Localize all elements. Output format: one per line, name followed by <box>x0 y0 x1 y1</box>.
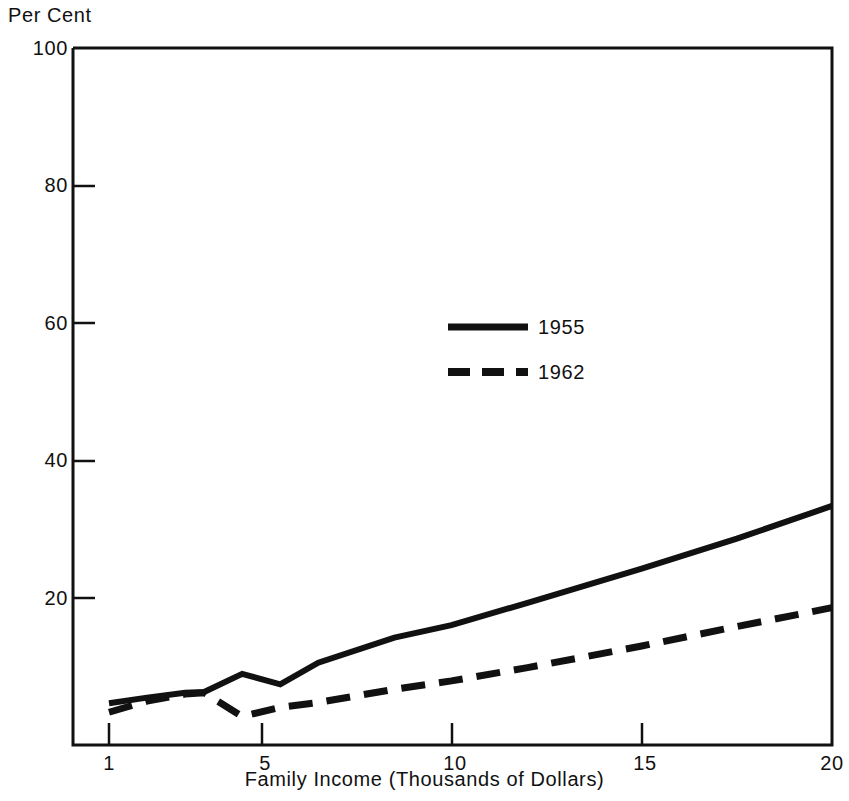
y-axis-ticks <box>73 186 95 598</box>
series-line-1962 <box>109 608 832 717</box>
series-line-1955 <box>109 506 832 703</box>
chart-figure: Per Cent 100 80 60 40 20 1 5 10 15 20 Fa… <box>0 0 849 801</box>
plot-area <box>0 0 849 801</box>
x-axis-ticks <box>109 723 642 745</box>
axis-frame <box>73 48 832 745</box>
